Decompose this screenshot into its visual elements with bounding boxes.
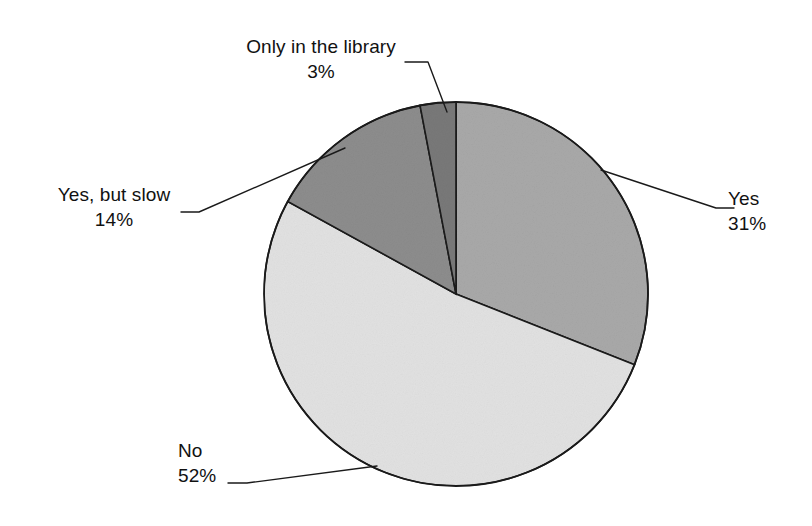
- pie-slices: [264, 102, 648, 486]
- pie-chart: Only in the library 3% Yes, but slow 14%…: [0, 0, 812, 526]
- slice-label-value: 52%: [178, 463, 238, 488]
- slice-label-name: Only in the library: [232, 34, 410, 59]
- slice-label-value: 31%: [728, 211, 798, 236]
- slice-label-yes: Yes 31%: [728, 186, 798, 236]
- slice-label-yes-but-slow: Yes, but slow 14%: [38, 182, 190, 232]
- slice-label-value: 3%: [232, 59, 410, 84]
- slice-label-name: Yes: [728, 186, 798, 211]
- slice-label-name: No: [178, 438, 238, 463]
- slice-label-no: No 52%: [178, 438, 238, 488]
- slice-label-value: 14%: [38, 207, 190, 232]
- leader-line-no: [228, 466, 377, 483]
- slice-label-name: Yes, but slow: [38, 182, 190, 207]
- slice-label-only-in-the-library: Only in the library 3%: [232, 34, 410, 84]
